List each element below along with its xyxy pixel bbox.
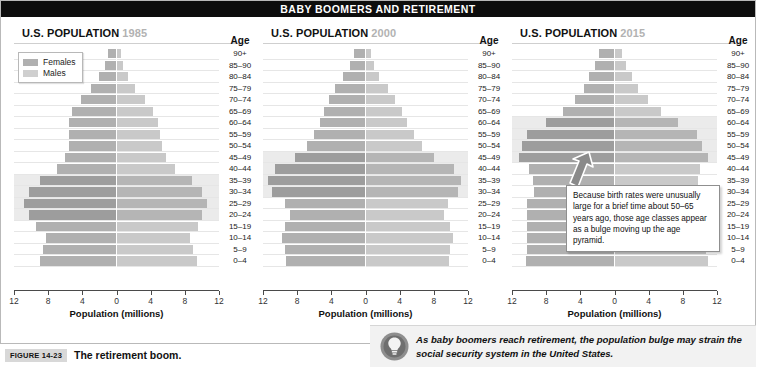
bar-females	[350, 61, 365, 70]
figure-root: BABY BOOMERS AND RETIREMENT U.S. POPULAT…	[0, 0, 758, 369]
pyramid-plot-2015	[512, 48, 717, 290]
age-group-label: 65–69	[720, 106, 756, 118]
x-axis-tick-label: 0	[607, 296, 623, 306]
age-group-label: 0–4	[222, 255, 258, 267]
age-group-label: 40–44	[471, 163, 507, 175]
age-group-label: 45–49	[222, 152, 258, 164]
age-group-label: 65–69	[222, 106, 258, 118]
bar-females	[46, 233, 117, 242]
bar-males	[366, 187, 458, 196]
bar-males	[366, 222, 451, 231]
age-group-label: 85–90	[471, 60, 507, 72]
bar-males	[117, 61, 124, 70]
bar-males	[366, 176, 462, 185]
age-group-label: 70–74	[471, 94, 507, 106]
figure-banner: BABY BOOMERS AND RETIREMENT	[1, 1, 755, 17]
bar-males	[366, 141, 422, 150]
x-axis-tick	[263, 291, 264, 295]
age-group-label: 35–39	[720, 175, 756, 187]
age-group-label: 40–44	[720, 163, 756, 175]
bar-females	[526, 256, 615, 265]
bar-males	[615, 118, 678, 127]
age-group-label: 80–84	[222, 71, 258, 83]
callout-arrow-icon	[568, 150, 594, 190]
bar-females	[282, 233, 366, 242]
x-axis-tick	[82, 291, 83, 295]
center-axis-line	[116, 48, 117, 290]
bar-females	[65, 153, 116, 162]
x-axis-tick	[468, 291, 469, 295]
bar-males	[615, 107, 661, 116]
panel-title-year: 2000	[371, 27, 396, 39]
age-axis-header: Age	[222, 34, 258, 48]
age-group-label: 90+	[720, 48, 756, 60]
x-axis-tick-label: 8	[538, 296, 554, 306]
x-axis-tick-label: 4	[572, 296, 588, 306]
bar-females	[589, 72, 615, 81]
bar-males	[117, 233, 190, 242]
legend-label: Males	[43, 68, 66, 78]
bar-females	[285, 245, 365, 254]
legend-label: Females	[43, 57, 76, 67]
bar-males	[117, 199, 208, 208]
bar-males	[117, 130, 161, 139]
population-panel-2015: U.S. POPULATION2015128404812Population (…	[506, 22, 753, 322]
bar-females	[72, 107, 116, 116]
bar-females	[335, 84, 366, 93]
x-axis-tick	[580, 291, 581, 295]
x-axis-tick	[151, 291, 152, 295]
age-group-label: 55–59	[720, 129, 756, 141]
pyramid-plot-1985	[14, 48, 219, 290]
age-group-label: 10–14	[222, 232, 258, 244]
panel-title-2015: U.S. POPULATION2015	[520, 27, 645, 39]
age-group-label: 35–39	[222, 175, 258, 187]
age-group-labels: 90+85–9080–8475–7970–7465–6960–6455–5950…	[471, 48, 507, 267]
bar-females	[24, 199, 116, 208]
x-axis-title: Population (millions)	[263, 308, 468, 319]
bar-females	[307, 141, 365, 150]
age-group-label: 15–19	[222, 221, 258, 233]
bar-males	[615, 130, 697, 139]
callout-box: Because birth rates were unusually large…	[566, 185, 720, 252]
age-group-label: 30–34	[720, 186, 756, 198]
bar-males	[615, 61, 626, 70]
x-axis-tick-label: 8	[675, 296, 691, 306]
x-axis-tick-label: 12	[6, 296, 22, 306]
age-group-label: 90+	[471, 48, 507, 60]
bar-males	[366, 233, 454, 242]
bar-females	[91, 84, 117, 93]
figure-caption-tag: FIGURE 14-23	[5, 349, 67, 362]
panel-title-rule	[14, 43, 248, 44]
age-axis-header: Age	[720, 34, 756, 48]
x-axis-tick-label: 0	[358, 296, 374, 306]
x-axis-tick	[512, 291, 513, 295]
figure-caption: FIGURE 14-23 The retirement boom.	[5, 348, 181, 362]
x-axis-tick-label: 12	[709, 296, 725, 306]
population-panel-2000: U.S. POPULATION2000128404812Population (…	[257, 22, 504, 322]
bar-males	[117, 222, 198, 231]
age-axis-header: Age	[471, 34, 507, 48]
bar-males	[366, 72, 380, 81]
x-axis-tick	[185, 291, 186, 295]
legend-item-females: Females	[23, 57, 76, 67]
age-group-label: 30–34	[471, 186, 507, 198]
age-group-label: 60–64	[471, 117, 507, 129]
bar-females	[519, 153, 615, 162]
bar-males	[615, 49, 623, 58]
age-group-label: 5–9	[222, 244, 258, 256]
bar-males	[366, 107, 403, 116]
bar-males	[615, 176, 699, 185]
x-axis-tick	[366, 291, 367, 295]
x-axis-tick	[434, 291, 435, 295]
age-group-label: 65–69	[471, 106, 507, 118]
bar-females	[69, 118, 117, 127]
panel-title-year: 1985	[122, 27, 147, 39]
female-swatch	[23, 59, 38, 66]
center-axis-line	[365, 48, 366, 290]
age-group-label: 85–90	[222, 60, 258, 72]
x-axis-tick	[400, 291, 401, 295]
bar-females	[575, 95, 614, 104]
panel-title-rule	[263, 43, 497, 44]
bar-females	[285, 199, 365, 208]
bar-males	[117, 72, 128, 81]
